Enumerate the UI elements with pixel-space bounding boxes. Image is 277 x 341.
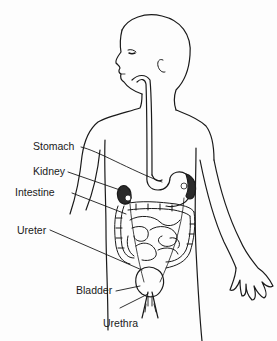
intestine-label: Intestine [15, 187, 55, 198]
anatomy-diagram: Stomach Kidney Intestine Ureter Bladder … [0, 0, 277, 341]
ureter-label: Ureter [17, 225, 46, 236]
urethra-leader-line [120, 294, 148, 308]
bladder-label: Bladder [76, 285, 112, 296]
urethra-label: Urethra [103, 318, 138, 329]
head [116, 15, 190, 110]
bladder-organ [136, 267, 164, 318]
stomach-organ [147, 172, 192, 207]
kidney-label: Kidney [33, 166, 65, 177]
intestine-organ [115, 202, 195, 268]
stomach-leader-line [81, 147, 162, 182]
torso-outline [70, 94, 273, 341]
bladder-leader-line [116, 286, 140, 291]
stomach-label: Stomach [33, 141, 74, 152]
